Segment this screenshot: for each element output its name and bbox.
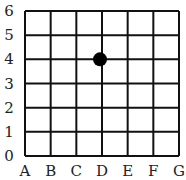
y-axis-label: 4 [4,50,14,68]
y-axis-label: 1 [4,123,14,141]
x-axis-label: D [96,162,108,180]
x-axis-label: B [45,162,56,180]
plotted-point [93,52,107,66]
y-axis-label: 2 [4,99,14,117]
x-axis-label: E [122,162,133,180]
x-axis-label: C [71,162,82,180]
y-axis-label: 3 [4,75,14,93]
coordinate-grid: ABCDEFG0123456 [0,0,186,180]
y-axis-label: 6 [4,2,14,20]
x-axis-label: G [173,162,185,180]
y-axis-label: 0 [4,147,14,165]
y-axis-label: 5 [4,26,14,44]
x-axis-label: F [148,162,158,180]
x-axis-label: A [19,162,31,180]
